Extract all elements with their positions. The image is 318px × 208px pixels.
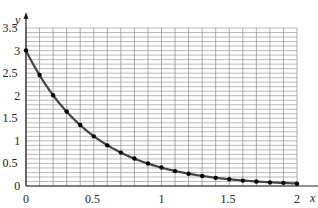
y-tick-label: 1.5: [3, 112, 18, 124]
data-point: [146, 161, 150, 165]
data-point: [37, 73, 41, 77]
data-point: [24, 48, 28, 52]
data-point: [92, 134, 96, 138]
data-point: [51, 93, 55, 97]
y-tick-label: 0.5: [3, 157, 18, 169]
data-point: [159, 165, 163, 169]
data-point: [105, 143, 109, 147]
data-point: [295, 182, 299, 186]
data-point: [132, 156, 136, 160]
y-axis-label: y: [15, 14, 20, 26]
x-axis-label: x: [310, 192, 315, 204]
x-tick-label: 1: [159, 193, 165, 205]
y-tick-label: 1: [14, 135, 20, 147]
y-tick-label: 2: [14, 90, 20, 102]
data-point: [119, 150, 123, 154]
data-point: [78, 123, 82, 127]
plot-area: [0, 0, 318, 208]
y-tick-label: 2.5: [3, 67, 18, 79]
data-point: [64, 109, 68, 113]
data-point: [214, 176, 218, 180]
data-point: [200, 174, 204, 178]
y-tick-label: 0: [14, 180, 20, 192]
data-point: [186, 172, 190, 176]
data-point: [173, 169, 177, 173]
x-tick-label: 2: [294, 193, 300, 205]
y-tick-label: 3: [14, 45, 20, 57]
data-point: [227, 177, 231, 181]
x-tick-label: 0.5: [85, 193, 100, 205]
data-point: [254, 179, 258, 183]
data-point: [281, 181, 285, 185]
data-point: [241, 178, 245, 182]
data-point: [268, 180, 272, 184]
y-axis-arrow-icon: [24, 12, 29, 19]
x-tick-label: 1.5: [221, 193, 236, 205]
x-tick-label: 0: [23, 193, 29, 205]
